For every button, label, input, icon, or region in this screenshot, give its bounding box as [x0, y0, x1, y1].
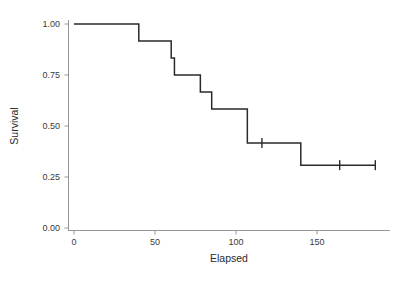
y-tick-label: 1.00: [42, 19, 60, 29]
y-tick-label: 0.50: [42, 121, 60, 131]
y-tick-label: 0.25: [42, 172, 60, 182]
x-tick-label: 0: [71, 237, 76, 247]
survival-chart-canvas: 0.000.250.500.751.00 050100150 Elapsed S…: [0, 0, 404, 281]
survival-plot-figure: 0.000.250.500.751.00 050100150 Elapsed S…: [0, 0, 404, 281]
x-axis-title: Elapsed: [210, 252, 248, 264]
x-tick-label: 50: [150, 237, 160, 247]
x-tick-label: 150: [309, 237, 324, 247]
plot-background: [0, 0, 404, 281]
y-tick-label: 0.75: [42, 70, 60, 80]
x-tick-label: 100: [228, 237, 243, 247]
y-tick-label: 0.00: [42, 223, 60, 233]
y-axis-title: Survival: [8, 107, 20, 144]
